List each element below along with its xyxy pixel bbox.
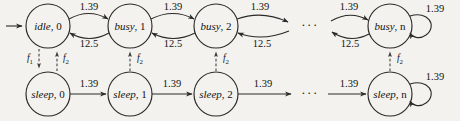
node-busy-2[interactable]: busy, 2	[194, 4, 238, 48]
f2-label-col2: f2	[223, 53, 230, 64]
node-sleep-1[interactable]: sleep, 1	[108, 72, 152, 116]
rate-label-col3-top: 1.39	[340, 1, 358, 12]
rate-label-sleep-seg2: 1.39	[254, 78, 272, 89]
edge-busy1-busy2-forward[interactable]	[151, 14, 194, 20]
ellipsis-busy-row: ···	[301, 17, 319, 32]
node-sleep-0[interactable]: sleep, 0	[26, 72, 70, 116]
rate-label-sleep-seg1: 1.39	[163, 78, 181, 89]
edge-ellipsis-busyn-forward[interactable]	[331, 15, 368, 21]
node-sleep-2[interactable]: sleep, 2	[194, 72, 238, 116]
rate-label-col2-top: 1.39	[251, 1, 269, 12]
node-label-sleep-n: sleep, n	[373, 88, 407, 100]
rate-label-col3-bottom: 12.5	[341, 38, 359, 49]
rate-label-col2-bottom: 12.5	[253, 38, 271, 49]
node-label-sleep-1: sleep, 1	[113, 88, 147, 100]
rate-label-col1-bottom: 12.5	[164, 38, 182, 49]
edge-busy2-ellipsis-forward[interactable]	[237, 15, 288, 22]
rate-label-busyn-loop: 1.39	[426, 3, 444, 14]
f1-label-col0: f1	[27, 53, 33, 64]
edge-sleepn-self-loop[interactable]	[410, 83, 431, 106]
node-label-idle-0: idle, 0	[34, 20, 62, 32]
rate-label-col1-top: 1.39	[164, 1, 182, 12]
f2-label-col1: f2	[137, 53, 144, 64]
node-busy-1[interactable]: busy, 1	[108, 4, 152, 48]
f2-label-coln: f2	[397, 53, 404, 64]
node-sleep-n[interactable]: sleep, n	[368, 72, 412, 116]
state-transition-diagram: idle, 0 busy, 1 busy, 2 busy, n sleep, 0…	[0, 0, 460, 121]
node-label-busy-2: busy, 2	[200, 20, 231, 32]
diagram-canvas: idle, 0 busy, 1 busy, 2 busy, n sleep, 0…	[0, 0, 460, 121]
rate-label-sleepn-loop: 1.39	[426, 71, 444, 82]
node-label-sleep-2: sleep, 2	[199, 88, 233, 100]
rate-label-sleep-seg3: 1.39	[340, 78, 358, 89]
edge-ellipsis-busy2-backward[interactable]	[238, 31, 289, 37]
f2-label-col0: f2	[63, 53, 70, 64]
node-busy-n[interactable]: busy, n	[368, 4, 412, 48]
edge-idle0-busy1-forward[interactable]	[69, 14, 108, 20]
node-label-busy-n: busy, n	[374, 20, 406, 32]
rate-label-col0-bottom: 12.5	[80, 38, 98, 49]
node-idle-0[interactable]: idle, 0	[26, 4, 70, 48]
edge-busyn-self-loop[interactable]	[410, 15, 431, 38]
rate-label-col0-top: 1.39	[80, 1, 98, 12]
node-label-busy-1: busy, 1	[114, 20, 145, 32]
rate-label-sleep-seg0: 1.39	[80, 78, 98, 89]
node-label-sleep-0: sleep, 0	[31, 88, 65, 100]
ellipsis-sleep-row: ···	[301, 85, 319, 100]
